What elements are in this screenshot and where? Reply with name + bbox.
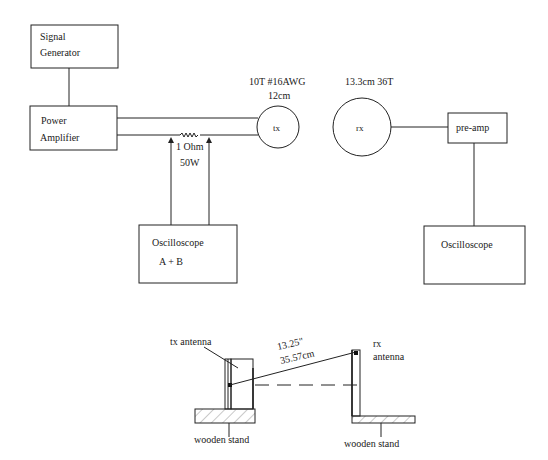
oscilloscope-right-label: Oscilloscope bbox=[441, 239, 493, 250]
diagram-canvas: Signal Generator Power Amplifier 1 Ohm 5… bbox=[0, 0, 548, 460]
rx-antenna-label-2: antenna bbox=[373, 351, 405, 362]
oscilloscope-left-block: Oscilloscope A + B bbox=[139, 225, 237, 283]
tx-wooden-stand bbox=[195, 409, 255, 423]
power-amplifier-label-1: Power bbox=[41, 115, 67, 126]
oscilloscope-right-block: Oscilloscope bbox=[424, 226, 525, 284]
signal-generator-label-1: Signal bbox=[40, 31, 66, 42]
resistor-zigzag-icon bbox=[180, 133, 198, 137]
rx-coil-spec: 13.3cm 36T bbox=[345, 76, 393, 87]
rx-coil: 13.3cm 36T rx bbox=[333, 76, 393, 156]
preamp-label: pre-amp bbox=[456, 122, 489, 133]
tx-coil-label: tx bbox=[273, 123, 281, 133]
rx-wooden-stand bbox=[352, 416, 415, 423]
tx-antenna-leader bbox=[204, 347, 238, 368]
rx-antenna-label-1: rx bbox=[373, 338, 381, 349]
power-amplifier-label-2: Amplifier bbox=[40, 132, 80, 143]
rx-antenna-assembly bbox=[352, 350, 360, 416]
resistor-label-1: 1 Ohm bbox=[176, 141, 204, 152]
oscilloscope-left-label: Oscilloscope bbox=[152, 237, 204, 248]
tx-coil-spec-2: 12cm bbox=[268, 90, 290, 101]
tx-stand-label: wooden stand bbox=[194, 434, 249, 445]
tx-coil-spec-1: 10T #16AWG bbox=[249, 76, 306, 87]
rx-antenna-point-icon bbox=[354, 351, 358, 355]
oscilloscope-left-channels: A + B bbox=[159, 256, 183, 267]
power-amplifier-block: Power Amplifier bbox=[30, 106, 117, 150]
tx-coil: 10T #16AWG 12cm tx bbox=[249, 76, 306, 148]
tx-antenna-label: tx antenna bbox=[170, 336, 212, 347]
preamp-block: pre-amp bbox=[448, 113, 507, 143]
signal-generator-label-2: Generator bbox=[40, 47, 81, 58]
resistor-label-2: 50W bbox=[180, 157, 200, 168]
rx-stand-label: wooden stand bbox=[344, 438, 399, 449]
signal-generator-block: Signal Generator bbox=[31, 25, 118, 68]
tx-antenna-assembly bbox=[225, 359, 253, 409]
rx-coil-label: rx bbox=[356, 123, 364, 133]
